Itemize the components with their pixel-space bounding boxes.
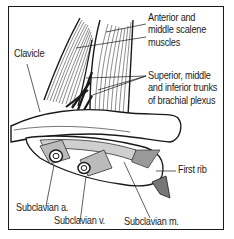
label-plexus-line2: and inferior trunks bbox=[148, 82, 217, 94]
label-scalene-line3: muscles bbox=[148, 37, 206, 49]
label-plexus-line3: of brachial plexus bbox=[148, 95, 217, 107]
label-plexus-line1: Superior, middle bbox=[148, 70, 217, 82]
label-subclavian-muscle: Subclavian m. bbox=[124, 216, 179, 228]
label-scalene-line1: Anterior and bbox=[148, 12, 206, 24]
label-brachial-plexus: Superior, middle and inferior trunks of … bbox=[148, 70, 217, 107]
label-subclavian-vein: Subclavian v. bbox=[54, 215, 105, 227]
label-clavicle: Clavicle bbox=[14, 48, 44, 60]
label-first-rib: First rib bbox=[178, 164, 207, 176]
label-scalene-muscles: Anterior and middle scalene muscles bbox=[148, 12, 206, 49]
label-subclavian-artery: Subclavian a. bbox=[16, 202, 68, 214]
scalene-muscles bbox=[44, 18, 133, 117]
label-scalene-line2: middle scalene bbox=[148, 24, 206, 36]
